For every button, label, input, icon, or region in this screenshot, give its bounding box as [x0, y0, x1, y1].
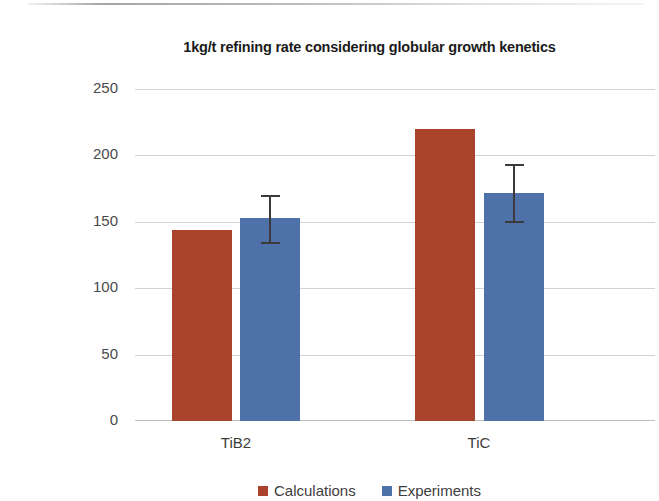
- x-axis-label-tic: TiC: [468, 434, 491, 451]
- legend-label-experiments: Experiments: [398, 482, 481, 499]
- y-axis-label-100: 100: [40, 278, 118, 295]
- bar-tic-experiments: [484, 193, 544, 421]
- bar-tib2-experiments: [240, 218, 300, 421]
- errorbar-tib2-experiments: [240, 195, 300, 244]
- legend-swatch-icon-calculations: [258, 486, 268, 496]
- y-axis-label-150: 150: [40, 212, 118, 229]
- errorbar-stem: [513, 164, 515, 223]
- bar-tic-calculations: [415, 129, 475, 421]
- x-axis-label-tib2: TiB2: [221, 434, 251, 451]
- y-axis-label-50: 50: [40, 345, 118, 362]
- bar-chart: 1kg/t refining rate considering globular…: [40, 16, 659, 501]
- y-axis-label-250: 250: [40, 79, 118, 96]
- errorbar-tic-experiments: [484, 164, 544, 223]
- errorbar-cap-bottom: [261, 242, 280, 244]
- gridline-250: [135, 89, 655, 90]
- errorbar-cap-top: [261, 195, 280, 197]
- errorbar-stem: [269, 195, 271, 244]
- bar-tib2-calculations: [172, 230, 232, 421]
- gridline-150: [135, 222, 655, 223]
- y-axis-label-200: 200: [40, 145, 118, 162]
- legend-swatch-icon-experiments: [382, 486, 392, 496]
- y-axis-label-0: 0: [40, 411, 118, 428]
- scan-artifact-line: [28, 3, 644, 5]
- plot-area: [135, 89, 655, 421]
- errorbar-cap-top: [505, 164, 524, 166]
- chart-legend: Calculations Experiments: [40, 482, 659, 499]
- legend-item-calculations: Calculations: [258, 482, 356, 499]
- legend-label-calculations: Calculations: [274, 482, 356, 499]
- errorbar-cap-bottom: [505, 221, 524, 223]
- chart-title: 1kg/t refining rate considering globular…: [40, 39, 659, 55]
- gridline-200: [135, 155, 655, 156]
- legend-item-experiments: Experiments: [382, 482, 481, 499]
